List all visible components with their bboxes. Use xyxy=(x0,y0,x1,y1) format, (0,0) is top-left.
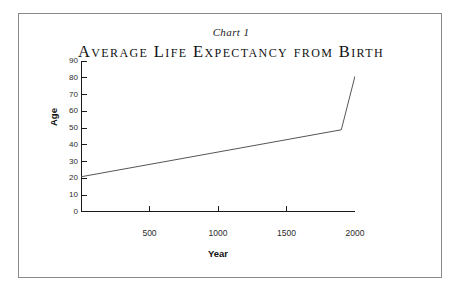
data-line-0 xyxy=(81,76,355,177)
y-tick-label: 70 xyxy=(60,91,78,99)
y-tick-label: 90 xyxy=(60,57,78,65)
y-tick-label: 60 xyxy=(60,107,78,115)
y-axis-tick-labels: 0102030405060708090 xyxy=(58,61,78,212)
x-tick-label: 500 xyxy=(130,228,170,238)
axes-group xyxy=(81,61,355,212)
x-axis-tick-labels: 500100015002000 xyxy=(81,228,355,242)
y-tick-label: 20 xyxy=(60,174,78,182)
plot-area xyxy=(81,61,355,212)
data-series-group xyxy=(81,76,355,177)
y-tick-label: 80 xyxy=(60,74,78,82)
x-axis-label: Year xyxy=(81,248,355,259)
x-tick-label: 1500 xyxy=(267,228,307,238)
y-tick-label: 40 xyxy=(60,141,78,149)
y-tick-label: 50 xyxy=(60,124,78,132)
y-tick-label: 0 xyxy=(60,208,78,216)
chart-figure: Chart 1 Average Life Expectancy from Bir… xyxy=(0,0,460,292)
y-tick-label: 10 xyxy=(60,191,78,199)
x-tick-label: 1000 xyxy=(198,228,238,238)
chart-title: Average Life Expectancy from Birth xyxy=(19,42,443,62)
y-tick-label: 30 xyxy=(60,158,78,166)
chart-svg xyxy=(81,61,355,212)
chart-number-caption: Chart 1 xyxy=(19,26,443,38)
x-tick-label: 2000 xyxy=(335,228,375,238)
y-axis-label: Age xyxy=(48,108,59,126)
